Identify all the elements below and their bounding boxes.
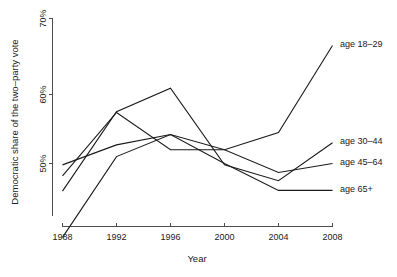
series-line-age-30-44 <box>63 88 333 191</box>
series-label-age-65plus: age 65+ <box>340 184 373 194</box>
x-tick-label-2004: 2004 <box>268 232 288 242</box>
series-label-age-45-64: age 45–64 <box>340 157 383 167</box>
y-tick-label-70: 70% <box>38 9 48 27</box>
series-line-age-65plus <box>63 135 333 191</box>
series-labels: age 18–29 age 30–44 age 45–64 age 65+ <box>340 39 383 194</box>
series-label-age-30-44: age 30–44 <box>340 136 383 146</box>
x-axis-title: Year <box>187 253 206 264</box>
y-tick-label-60: 60% <box>38 85 48 103</box>
y-axis-title: Democratic share of the two–party vote <box>9 39 20 204</box>
x-tick-label-1996: 1996 <box>160 232 180 242</box>
x-tick-label-1992: 1992 <box>106 232 126 242</box>
series-label-age-18-29: age 18–29 <box>340 39 383 49</box>
x-axis: 1988 1992 1996 2000 2004 2008 Year <box>52 223 342 265</box>
series-line-age-18-29 <box>63 46 333 238</box>
y-axis: 70% 60% 50% Democratic share of the two–… <box>9 9 53 215</box>
line-chart: 70% 60% 50% Democratic share of the two–… <box>0 0 397 277</box>
y-tick-label-50: 50% <box>38 154 48 172</box>
series-group <box>63 46 333 238</box>
x-tick-label-2008: 2008 <box>322 232 342 242</box>
series-line-age-45-64 <box>63 112 333 175</box>
chart-container: 70% 60% 50% Democratic share of the two–… <box>0 0 397 277</box>
x-tick-label-2000: 2000 <box>214 232 234 242</box>
